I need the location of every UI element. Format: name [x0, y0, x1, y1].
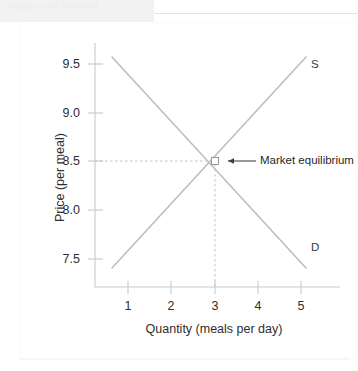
- arrow-left-icon: [228, 158, 256, 163]
- demand-curve-label: D: [311, 241, 319, 253]
- x-tick-label-5: 5: [291, 299, 311, 313]
- market-equilibrium-label: Market equilibrium: [260, 154, 354, 166]
- y-tick-label-9-0: 9.0: [44, 106, 80, 120]
- y-tick-label-9-5: 9.5: [44, 57, 80, 71]
- equilibrium-marker: [212, 158, 219, 165]
- supply-curve-label: S: [311, 58, 319, 70]
- y-axis-title: Price (per meal): [53, 133, 67, 222]
- y-tick-label-7-5: 7.5: [44, 252, 80, 266]
- x-tick-label-2: 2: [161, 299, 181, 313]
- x-tick-label-4: 4: [248, 299, 268, 313]
- supply-demand-chart: 9.5 9.0 8.5 8.0 7.5 1 2 3 4 5 Quantity (…: [0, 0, 358, 371]
- x-tick-label-1: 1: [118, 299, 138, 313]
- x-tick-label-3: 3: [205, 299, 225, 313]
- x-axis-title: Quantity (meals per day): [99, 322, 329, 336]
- page-root: Supply and Demand: [0, 0, 358, 371]
